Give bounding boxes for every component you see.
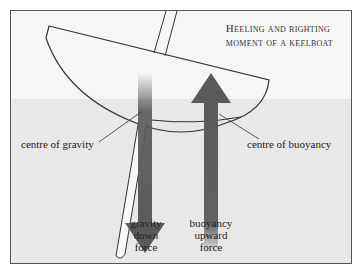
centre-of-buoyancy-label: centre of buoyancy: [247, 138, 331, 150]
buoyancy-line-2: upward: [183, 229, 239, 241]
gravity-line-1: gravity: [127, 217, 165, 229]
buoyancy-line-1: buoyancy: [183, 217, 239, 229]
buoyancy-line-3: force: [183, 241, 239, 253]
mast: [154, 11, 177, 56]
gravity-line-3: force: [127, 241, 165, 253]
gravity-force-label: gravity down force: [127, 217, 165, 253]
diagram-title: Heeling and righting moment of a keelboa…: [226, 21, 333, 49]
diagram-frame: Heeling and righting moment of a keelboa…: [10, 10, 352, 264]
buoyancy-force-label: buoyancy upward force: [183, 217, 239, 253]
gravity-line-2: down: [127, 229, 165, 241]
title-line-2: moment of a keelboat: [226, 35, 333, 49]
title-line-1: Heeling and righting: [226, 21, 333, 35]
centre-of-gravity-label: centre of gravity: [21, 138, 94, 150]
